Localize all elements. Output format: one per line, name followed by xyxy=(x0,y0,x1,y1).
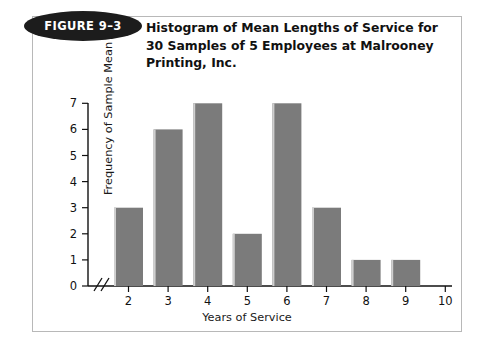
histogram-bar xyxy=(391,260,420,286)
histogram-bar-highlight xyxy=(352,260,354,286)
histogram-bar xyxy=(193,103,222,286)
histogram-bar xyxy=(114,208,143,286)
x-tick-label: 5 xyxy=(244,294,251,308)
x-tick-label: 4 xyxy=(204,294,211,308)
y-tick-label: 5 xyxy=(70,149,77,163)
x-tick-label: 2 xyxy=(125,294,132,308)
y-tick-label: 7 xyxy=(70,96,77,110)
x-tick-label: 8 xyxy=(362,294,369,308)
y-tick-label: 2 xyxy=(70,227,77,241)
histogram-bar-highlight xyxy=(154,129,156,286)
x-tick-label: 10 xyxy=(438,294,453,308)
histogram-bar-highlight xyxy=(233,234,235,286)
y-tick-label: 0 xyxy=(70,279,77,293)
figure-number-label: FIGURE 9–3 xyxy=(44,19,121,33)
x-tick-label: 6 xyxy=(283,294,290,308)
histogram-bar xyxy=(352,260,381,286)
y-tick-label: 3 xyxy=(70,201,77,215)
y-tick-label: 1 xyxy=(70,253,77,267)
histogram-bar xyxy=(312,208,341,286)
y-tick-label: 4 xyxy=(70,175,77,189)
histogram-bar-highlight xyxy=(312,208,314,286)
bar-series xyxy=(114,103,420,286)
y-axis-ticks: 01234567 xyxy=(70,96,88,293)
histogram-bar-highlight xyxy=(193,103,195,286)
figure-title: Histogram of Mean Lengths of Service for… xyxy=(146,19,446,72)
histogram-bar-highlight xyxy=(114,208,116,286)
axis-break-marks xyxy=(94,278,109,291)
y-tick-label: 6 xyxy=(70,122,77,136)
histogram-bar xyxy=(272,103,301,286)
histogram-bar-highlight xyxy=(391,260,393,286)
x-tick-label: 3 xyxy=(164,294,171,308)
figure-number-badge: FIGURE 9–3 xyxy=(24,11,142,41)
x-tick-label: 9 xyxy=(402,294,409,308)
histogram-bar-highlight xyxy=(272,103,274,286)
histogram-bar xyxy=(154,129,183,286)
x-axis-ticks: 2345678910 xyxy=(125,286,453,308)
histogram-bar xyxy=(233,234,262,286)
x-tick-label: 7 xyxy=(323,294,330,308)
